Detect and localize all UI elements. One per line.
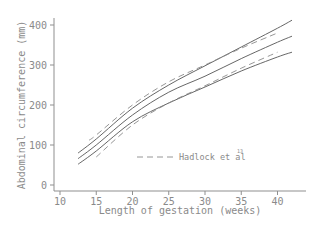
y-ticks: 0100200300400 bbox=[29, 20, 54, 191]
y-tick-label: 300 bbox=[29, 60, 47, 71]
plot-series bbox=[78, 20, 292, 164]
legend-superscript: 13 bbox=[237, 148, 243, 154]
y-tick-label: 100 bbox=[29, 140, 47, 151]
chart-canvas: 0100200300400 10152025303540 Length of g… bbox=[0, 0, 322, 228]
axes bbox=[54, 18, 306, 191]
y-tick-label: 200 bbox=[29, 100, 47, 111]
y-tick-label: 0 bbox=[41, 180, 47, 191]
y-axis-label: Abdominal circumference (mm) bbox=[16, 21, 27, 190]
x-tick-label: 10 bbox=[54, 196, 66, 207]
x-axis-label: Length of gestation (weeks) bbox=[99, 205, 262, 216]
centile-curve bbox=[78, 36, 292, 158]
y-tick-label: 400 bbox=[29, 20, 47, 31]
x-tick-label: 40 bbox=[271, 196, 283, 207]
centile-curve bbox=[78, 52, 292, 164]
legend-label: Hadlock et al bbox=[179, 152, 246, 162]
hadlock-curve bbox=[89, 33, 278, 140]
hadlock-curve bbox=[96, 52, 277, 157]
legend: Hadlock et al 13 bbox=[137, 148, 246, 162]
